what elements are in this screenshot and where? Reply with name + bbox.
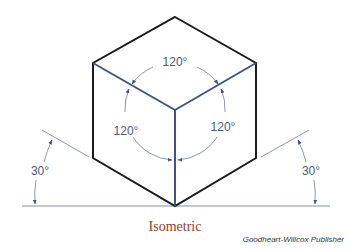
top-120-arc-right [197,67,218,84]
left-120-arc-upper [125,89,129,112]
cube-drawing: 120° 120° 120° 30° 30° [0,0,350,250]
right-30-line [261,130,309,157]
axis-right [175,63,256,110]
left-30-line [42,130,89,157]
left-120-arc-lower [133,137,172,160]
left-30-arc-lower [35,180,36,204]
axis-left [93,63,175,110]
right-120-arc-upper [221,89,225,112]
angle-label-top: 120° [163,55,188,69]
diagram-caption: Isometric [0,219,350,235]
isometric-diagram: 120° 120° 120° 30° 30° Isometric Goodhea… [0,0,350,250]
top-120-arc-left [132,67,153,84]
right-120-arc-lower [178,137,217,160]
publisher-credit: Goodheart-Willcox Publisher [243,235,344,244]
angle-label-left: 120° [114,124,139,138]
right-30-arc-lower [314,180,315,204]
left-30-arc-upper [44,140,52,162]
right-30-arc-upper [298,140,306,162]
angle-label-left-30: 30° [31,164,49,178]
angle-label-right-30: 30° [302,164,320,178]
angle-label-right: 120° [211,120,236,134]
